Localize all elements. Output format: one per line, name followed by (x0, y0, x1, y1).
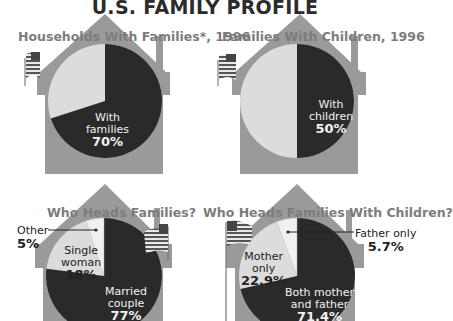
label-mother-only: Mother only 22.9% (241, 251, 286, 288)
page-title: U.S. FAMILY PROFILE (0, 0, 410, 18)
label-both-mother-and-father: Both mother and father 71.4% (285, 287, 354, 321)
label-with-children: With children 50% (309, 99, 353, 136)
label-with-families: With families 70% (86, 112, 129, 149)
panel-title-children: Families With Children, 1996 (222, 29, 425, 44)
panel-title-who-heads: Who Heads Families? (47, 205, 196, 220)
label-other: Other 5% (17, 225, 48, 250)
label-single-woman: Single woman 18% (61, 245, 101, 282)
panel-title-households: Households With Families*, 1996 (18, 29, 250, 44)
label-married-couple: Married couple 77% (105, 286, 147, 321)
label-father-only: Father only 5.7% (355, 228, 416, 253)
panel-title-who-heads-children: Who Heads Families With Children? (203, 205, 453, 220)
